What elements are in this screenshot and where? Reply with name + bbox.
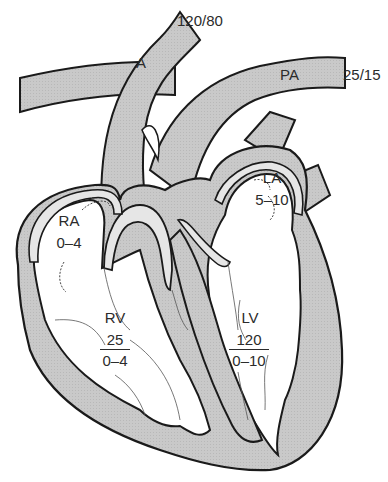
left-atrium-pressure: 5–10 [252, 192, 292, 207]
right-atrium-label: RA [52, 213, 86, 228]
left-atrium-label: LA [252, 170, 292, 185]
left-ventricle-systolic: 120 [229, 332, 269, 350]
right-ventricle-systolic: 25 [100, 332, 130, 350]
pulmonary-artery-label: PA [280, 67, 299, 82]
right-ventricle-pressure: 25 0–4 [100, 332, 130, 368]
left-ventricle-diastolic: 0–10 [229, 350, 269, 368]
aorta-pressure: 120/80 [177, 13, 223, 28]
right-ventricle-label: RV [100, 310, 130, 325]
pulmonary-artery-pressure: 25/15 [343, 67, 381, 82]
right-ventricle-diastolic: 0–4 [100, 350, 130, 368]
left-ventricle-label: LV [231, 310, 269, 325]
left-ventricle-pressure: 120 0–10 [229, 332, 269, 368]
aorta-label: A [136, 55, 146, 70]
right-atrium-pressure: 0–4 [52, 235, 86, 250]
